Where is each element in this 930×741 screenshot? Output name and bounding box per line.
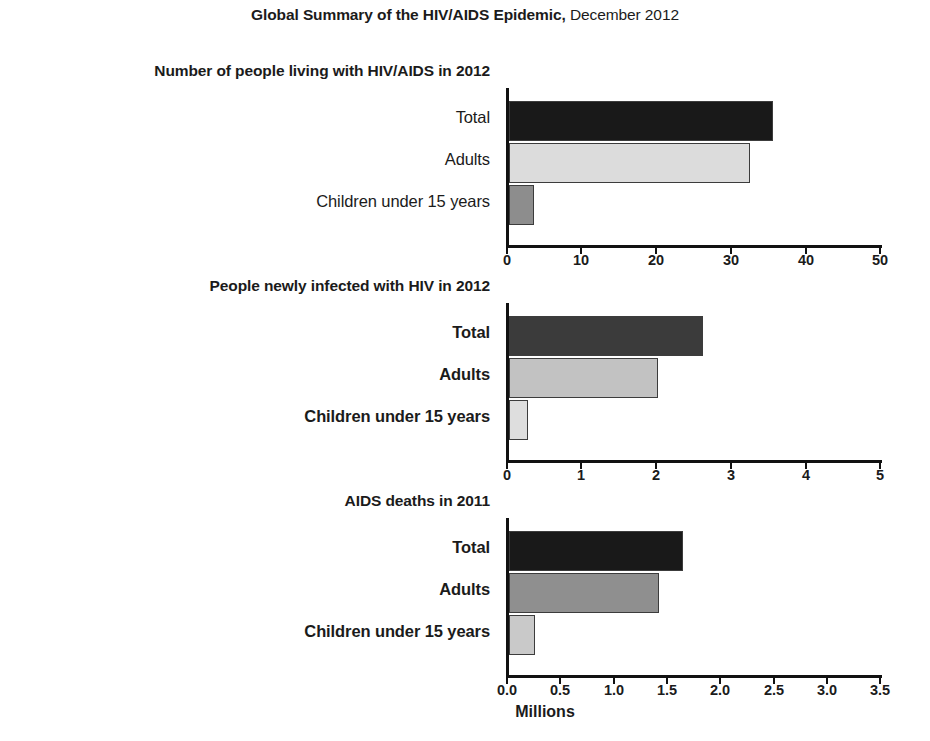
- category-label-total: Total: [20, 323, 490, 342]
- tick-label: 1: [551, 467, 611, 483]
- tick-label: 1.5: [637, 682, 697, 698]
- tick-label: 0: [477, 467, 537, 483]
- tick-label: 3.0: [797, 682, 857, 698]
- category-label-children: Children under 15 years: [20, 622, 490, 641]
- bar-children[interactable]: [509, 400, 528, 440]
- category-label-adults: Adults: [20, 365, 490, 384]
- bar-children[interactable]: [509, 185, 534, 225]
- tick-label: 3.5: [850, 682, 910, 698]
- category-label-children: Children under 15 years: [20, 192, 490, 211]
- tick-label: 5: [850, 467, 910, 483]
- chart-heading: AIDS deaths in 2011: [20, 492, 490, 510]
- page-title: Global Summary of the HIV/AIDS Epidemic,…: [0, 6, 930, 24]
- x-axis-unit-text: Millions: [515, 703, 575, 721]
- x-axis-unit-label: Millions: [0, 703, 930, 721]
- tick-label: 20: [626, 252, 686, 268]
- bar-total[interactable]: [509, 531, 683, 571]
- bar-total[interactable]: [509, 316, 703, 356]
- tick-label: 1.0: [584, 682, 644, 698]
- tick-label: 2: [626, 467, 686, 483]
- tick-label: 0.0: [477, 682, 537, 698]
- tick-label: 2.5: [744, 682, 804, 698]
- bar-children[interactable]: [509, 615, 535, 655]
- category-label-total: Total: [20, 538, 490, 557]
- page-title-bold: Global Summary of the HIV/AIDS Epidemic,: [251, 6, 566, 23]
- tick-label: 4: [776, 467, 836, 483]
- bar-adults[interactable]: [509, 573, 659, 613]
- tick-label: 3: [701, 467, 761, 483]
- category-label-total: Total: [20, 108, 490, 127]
- tick-label: 30: [701, 252, 761, 268]
- tick-label: 0.5: [530, 682, 590, 698]
- tick-label: 0: [477, 252, 537, 268]
- bar-adults[interactable]: [509, 358, 658, 398]
- tick-label: 2.0: [690, 682, 750, 698]
- chart-heading: Number of people living with HIV/AIDS in…: [20, 62, 490, 80]
- category-label-children: Children under 15 years: [20, 407, 490, 426]
- category-label-adults: Adults: [20, 150, 490, 169]
- bar-total[interactable]: [509, 101, 773, 141]
- category-label-adults: Adults: [20, 580, 490, 599]
- tick-label: 50: [850, 252, 910, 268]
- tick-label: 10: [551, 252, 611, 268]
- x-axis-line: [506, 460, 882, 463]
- bar-adults[interactable]: [509, 143, 750, 183]
- chart-heading: People newly infected with HIV in 2012: [20, 277, 490, 295]
- page-title-date: December 2012: [566, 6, 679, 23]
- tick-label: 40: [776, 252, 836, 268]
- x-axis-line: [506, 245, 882, 248]
